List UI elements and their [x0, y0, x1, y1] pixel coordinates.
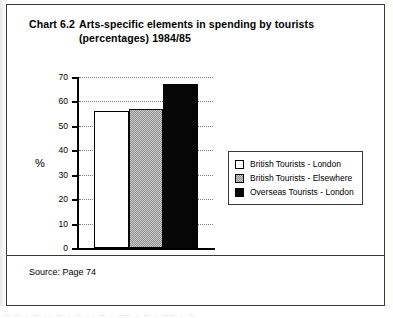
y-tick-label: 20 [59, 195, 68, 203]
tick-mark [72, 77, 78, 79]
chart-title-text: Arts-specific elements in spending by to… [79, 18, 314, 30]
plot-area: 70 60 50 40 30 [77, 77, 213, 249]
legend-swatch-black-icon [235, 188, 244, 197]
legend-item-british-tourists-elsewhere: British Tourists - Elsewhere [235, 171, 354, 185]
legend-label: British Tourists - London [250, 159, 341, 169]
scan-artifact-text: – – · – ·· – · – ·· – · –– · – · –– · – [4, 310, 393, 318]
tick-mark [72, 224, 78, 226]
legend-swatch-grey-icon [235, 174, 244, 183]
legend-swatch-white-icon [235, 160, 244, 169]
chart-title: Chart 6.2Arts-specific elements in spend… [29, 17, 359, 45]
y-tick-label: 40 [59, 146, 68, 154]
chart-subtitle-text: (percentages) 1984/85 [79, 32, 191, 44]
y-tick-label: 30 [59, 171, 68, 179]
legend-item-british-tourists-london: British Tourists - London [235, 157, 354, 171]
scan-bottom-edge: – – · – ·· – · – ·· – · –– · – · –– · – [0, 306, 393, 318]
tick-mark [72, 199, 78, 201]
bar-overseas-tourists-london [163, 84, 198, 248]
scanned-page: Chart 6.2Arts-specific elements in spend… [0, 0, 393, 318]
y-axis-title: % [35, 157, 45, 169]
y-tick-label: 0 [63, 244, 68, 252]
tick-mark [72, 101, 78, 103]
y-tick-label: 70 [59, 73, 68, 81]
tick-mark [72, 126, 78, 128]
chart-number-label: Chart 6.2 [29, 17, 79, 31]
chart-title-line-1: Chart 6.2Arts-specific elements in spend… [29, 17, 359, 31]
bar-british-tourists-london [94, 111, 129, 248]
x-axis-line [73, 248, 215, 250]
chart-frame: Chart 6.2Arts-specific elements in spend… [6, 4, 385, 306]
legend-label: Overseas Tourists - London [250, 187, 354, 197]
tick-mark [72, 150, 78, 152]
source-note: Source: Page 74 [29, 267, 96, 277]
tick-mark [72, 248, 78, 250]
chart-legend: British Tourists - London British Touris… [228, 151, 363, 205]
source-divider [7, 255, 384, 256]
grid-line [79, 77, 213, 79]
y-tick-label: 10 [59, 220, 68, 228]
bar-british-tourists-elsewhere [129, 109, 163, 248]
y-tick-label: 60 [59, 97, 68, 105]
legend-item-overseas-tourists-london: Overseas Tourists - London [235, 185, 354, 199]
y-tick-label: 50 [59, 122, 68, 130]
legend-label: British Tourists - Elsewhere [250, 173, 352, 183]
chart-title-line-2: (percentages) 1984/85 [29, 31, 359, 45]
tick-mark [72, 175, 78, 177]
